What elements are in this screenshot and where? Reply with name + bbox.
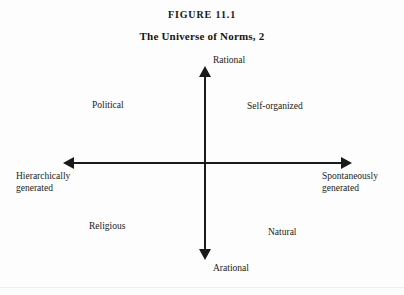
quadrant-label-political: Political — [92, 99, 124, 111]
axis-label-spontaneously-line1: Spontaneously — [322, 170, 378, 182]
arrow-left-icon — [63, 157, 74, 169]
axis-label-spontaneously-line2: generated — [322, 182, 378, 194]
quadrant-label-religious: Religious — [89, 220, 125, 232]
axis-label-hierarchically-line1: Hierarchically — [16, 170, 70, 182]
axis-label-hierarchically-line2: generated — [16, 182, 70, 194]
figure-number: FIGURE 11.1 — [0, 9, 404, 20]
figure-title: The Universe of Norms, 2 — [0, 30, 404, 42]
figure-container: FIGURE 11.1 The Universe of Norms, 2 Rat… — [0, 0, 404, 295]
axis-label-spontaneously-generated: Spontaneously generated — [322, 170, 378, 194]
axis-label-rational: Rational — [213, 54, 245, 66]
quadrant-label-natural: Natural — [268, 226, 297, 238]
horizontal-axis-line — [70, 162, 346, 164]
quadrant-label-self-organized: Self-organized — [247, 100, 303, 112]
arrow-up-icon — [199, 66, 211, 77]
page-bottom-rule — [0, 287, 404, 288]
arrow-right-icon — [341, 157, 352, 169]
axis-label-arational: Arational — [213, 262, 249, 274]
axis-label-hierarchically-generated: Hierarchically generated — [16, 170, 70, 194]
arrow-down-icon — [199, 249, 211, 260]
